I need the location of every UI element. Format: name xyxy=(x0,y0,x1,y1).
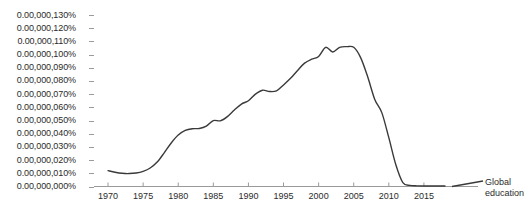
x-tick-marks xyxy=(108,183,424,187)
ngram-chart: 0.00,000,130%0.00,000,120%0.00,000,110%0… xyxy=(0,0,529,219)
legend-label-line1: Global xyxy=(485,177,524,188)
series-legend-label: Global education xyxy=(485,177,524,199)
legend-label-line2: education xyxy=(485,188,524,199)
series-line-global-education xyxy=(108,46,445,186)
plot-area xyxy=(0,0,529,219)
legend-connector-line xyxy=(452,181,483,187)
